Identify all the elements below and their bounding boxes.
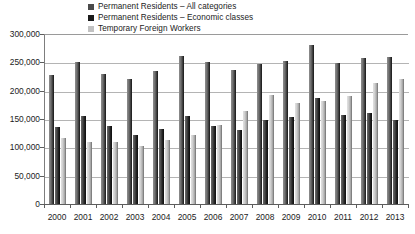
bar-all-categories [335, 63, 340, 204]
y-axis-tick-label: 150,000 [10, 114, 40, 124]
bar-group [127, 34, 145, 204]
bar-group [153, 34, 171, 204]
x-axis-tick-mark [226, 204, 227, 208]
bar-all-categories [283, 61, 288, 204]
legend-label-temporary-foreign-workers: Temporary Foreign Workers [98, 23, 201, 34]
legend-item-economic-classes: Permanent Residents – Economic classes [88, 12, 253, 23]
bar-temporary-foreign-workers [165, 140, 170, 204]
x-axis-tick-label: 2003 [126, 212, 145, 222]
x-axis-tick-mark [408, 204, 409, 208]
bar-economic-classes [367, 113, 372, 204]
bar-economic-classes [393, 120, 398, 204]
x-axis-tick-mark [382, 204, 383, 208]
x-axis-tick-label: 2011 [334, 212, 352, 222]
legend-swatch-economic-classes-icon [88, 15, 94, 21]
bar-group [361, 34, 379, 204]
bar-temporary-foreign-workers [139, 146, 144, 204]
bar-temporary-foreign-workers [61, 138, 66, 204]
bar-economic-classes [341, 115, 346, 204]
bar-economic-classes [159, 129, 164, 204]
bar-all-categories [231, 70, 236, 204]
x-axis-tick-label: 2000 [48, 212, 67, 222]
bar-group [257, 34, 275, 204]
x-axis-tick-mark [44, 204, 45, 208]
bar-temporary-foreign-workers [373, 83, 378, 204]
bar-all-categories [361, 58, 366, 204]
y-axis-tick-label: 250,000 [10, 57, 40, 67]
bar-all-categories [49, 75, 54, 204]
y-axis-tick-label: 50,000 [14, 171, 40, 181]
x-axis-tick-label: 2013 [386, 212, 405, 222]
bar-all-categories [205, 62, 210, 204]
x-axis-tick-label: 2007 [230, 212, 249, 222]
bar-economic-classes [185, 116, 190, 204]
bar-temporary-foreign-workers [191, 135, 196, 204]
y-axis-tick-label: 200,000 [10, 86, 40, 96]
bar-all-categories [387, 57, 392, 204]
bar-all-categories [101, 74, 106, 204]
legend-item-temporary-foreign-workers: Temporary Foreign Workers [88, 23, 253, 34]
x-axis-tick-mark [70, 204, 71, 208]
bar-temporary-foreign-workers [295, 103, 300, 204]
bar-group [309, 34, 327, 204]
bar-group [49, 34, 67, 204]
bar-all-categories [153, 71, 158, 204]
x-axis-tick-label: 2002 [100, 212, 119, 222]
bar-temporary-foreign-workers [243, 111, 248, 205]
bar-group [231, 34, 249, 204]
x-axis-tick-label: 2008 [256, 212, 275, 222]
y-axis: 300,000250,000200,000150,000100,00050,00… [0, 0, 40, 234]
x-axis-tick-mark [96, 204, 97, 208]
bar-group [179, 34, 197, 204]
bar-group [101, 34, 119, 204]
bar-economic-classes [263, 120, 268, 204]
x-axis-tick-label: 2012 [360, 212, 379, 222]
bar-groups [44, 34, 408, 204]
x-axis-tick-label: 2010 [308, 212, 327, 222]
legend-label-economic-classes: Permanent Residents – Economic classes [98, 12, 253, 23]
legend-item-all-categories: Permanent Residents – All categories [88, 1, 253, 12]
bar-all-categories [127, 79, 132, 204]
bar-economic-classes [289, 117, 294, 204]
legend-label-all-categories: Permanent Residents – All categories [98, 1, 236, 12]
x-axis-tick-mark [148, 204, 149, 208]
bar-economic-classes [211, 126, 216, 204]
legend-swatch-all-categories-icon [88, 4, 94, 10]
bar-temporary-foreign-workers [217, 125, 222, 204]
x-axis-tick-mark [304, 204, 305, 208]
x-axis-tick-mark [252, 204, 253, 208]
chart-figure: Permanent Residents – All categories Per… [0, 0, 415, 234]
chart-legend: Permanent Residents – All categories Per… [88, 1, 253, 34]
y-axis-tick-label: 300,000 [10, 29, 40, 39]
bar-group [283, 34, 301, 204]
bar-temporary-foreign-workers [269, 95, 274, 204]
x-axis-tick-mark [174, 204, 175, 208]
bar-temporary-foreign-workers [347, 96, 352, 204]
bar-temporary-foreign-workers [399, 79, 404, 204]
bar-temporary-foreign-workers [321, 101, 326, 204]
x-axis-tick-mark [122, 204, 123, 208]
bar-all-categories [179, 56, 184, 204]
y-axis-tick-label: 100,000 [10, 142, 40, 152]
bar-group [387, 34, 405, 204]
bar-temporary-foreign-workers [113, 142, 118, 204]
bar-group [75, 34, 93, 204]
bar-all-categories [309, 45, 314, 204]
bar-group [335, 34, 353, 204]
bar-economic-classes [81, 116, 86, 204]
bar-group [205, 34, 223, 204]
bar-economic-classes [55, 127, 60, 204]
x-axis-tick-label: 2001 [74, 212, 93, 222]
legend-swatch-temporary-foreign-workers-icon [88, 26, 94, 32]
bar-economic-classes [107, 126, 112, 204]
x-axis-tick-mark [356, 204, 357, 208]
bar-all-categories [75, 62, 80, 204]
bar-economic-classes [315, 98, 320, 204]
bar-all-categories [257, 64, 262, 204]
x-axis-tick-label: 2005 [178, 212, 197, 222]
bar-economic-classes [133, 135, 138, 204]
x-axis-tick-mark [200, 204, 201, 208]
bar-temporary-foreign-workers [87, 142, 92, 204]
x-axis-tick-label: 2006 [204, 212, 223, 222]
x-axis-tick-mark [330, 204, 331, 208]
